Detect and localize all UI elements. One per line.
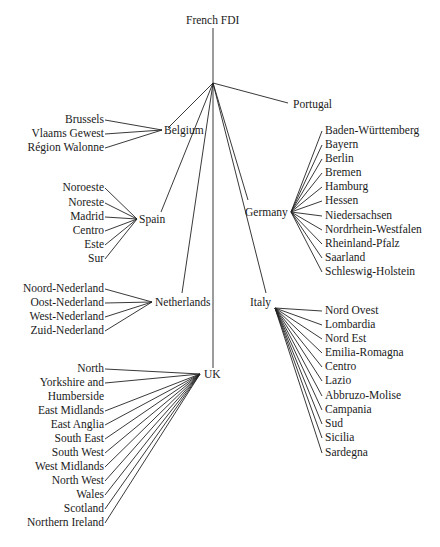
region-label: Nord Est: [325, 332, 366, 345]
country-label-portugal: Portugal: [293, 98, 332, 111]
region-label: West-Nederland: [30, 310, 104, 323]
region-edge: [105, 130, 162, 148]
region-label: Bayern: [325, 138, 358, 151]
region-label: Nord Ovest: [325, 304, 378, 317]
country-label-spain: Spain: [139, 213, 165, 226]
region-edge: [275, 308, 322, 381]
region-label: Emilia-Romagna: [325, 346, 404, 359]
region-edge: [291, 212, 322, 216]
region-label: North: [77, 362, 104, 375]
region-edge: [105, 374, 200, 439]
region-label: West Midlands: [35, 460, 104, 473]
root-label: French FDI: [186, 14, 239, 27]
region-label: Sicilia: [325, 431, 354, 444]
region-edge: [275, 308, 322, 453]
region-label: Sud: [325, 417, 343, 430]
region-label: Yorkshire and: [40, 376, 104, 389]
country-label-uk: UK: [204, 368, 221, 381]
region-label: Bremen: [325, 166, 361, 179]
country-label-germany: Germany: [245, 206, 288, 219]
region-label: Northern Ireland: [27, 516, 104, 529]
region-edge: [105, 188, 137, 219]
region-label: Berlin: [325, 152, 354, 165]
region-label: Humberside: [48, 390, 104, 403]
region-edge: [275, 308, 322, 396]
region-edge: [105, 374, 200, 467]
region-label: Noreste: [68, 196, 104, 209]
country-label-italy: Italy: [250, 296, 271, 309]
region-edge: [105, 130, 162, 134]
region-label: Vlaams Gewest: [32, 127, 105, 140]
region-label: Région Walonne: [28, 141, 104, 154]
region-edge: [291, 159, 322, 212]
region-label: Centro: [325, 360, 356, 373]
hub-edge: [213, 83, 266, 293]
region-edge: [105, 203, 137, 219]
region-label: Brussels: [65, 113, 104, 126]
region-edge: [275, 308, 322, 424]
french-fdi-tree-diagram: French FDI BelgiumBrusselsVlaams GewestR…: [0, 0, 440, 547]
hub-edge: [182, 83, 213, 293]
country-label-belgium: Belgium: [164, 124, 204, 137]
region-label: Sardegna: [325, 446, 368, 459]
region-edge: [105, 217, 137, 219]
region-edge: [105, 289, 152, 302]
region-edge: [105, 120, 162, 130]
country-label-netherlands: Netherlands: [155, 296, 211, 309]
region-edge: [105, 302, 152, 331]
region-label: East Midlands: [38, 404, 104, 417]
region-label: Hamburg: [325, 180, 368, 193]
region-label: Schleswig-Holstein: [325, 265, 415, 278]
region-edge: [105, 302, 152, 303]
region-edge: [105, 219, 137, 245]
region-edge: [105, 369, 200, 374]
region-label: Scotland: [64, 502, 104, 515]
region-edge: [105, 302, 152, 317]
region-label: Rheinland-Pfalz: [325, 237, 400, 250]
region-label: Este: [84, 238, 104, 251]
region-label: Lazio: [325, 374, 351, 387]
region-label: East Anglia: [51, 418, 104, 431]
region-label: Saarland: [325, 251, 365, 264]
region-label: Baden-Württemberg: [325, 124, 419, 137]
region-edge: [275, 308, 322, 438]
region-label: Oost-Nederland: [31, 296, 104, 309]
region-label: Campania: [325, 403, 372, 416]
hub-edge: [168, 83, 213, 128]
region-label: Nordrhein-Westfalen: [325, 223, 422, 236]
region-edge: [105, 374, 200, 523]
region-edge: [291, 212, 322, 244]
region-label: Zuid-Nederland: [31, 324, 104, 337]
region-label: Abbruzo-Molise: [325, 389, 401, 402]
region-label: Sur: [88, 252, 104, 265]
region-edge: [291, 212, 322, 258]
region-label: Niedersachsen: [325, 209, 392, 222]
hub-edge: [213, 83, 288, 103]
region-label: Centro: [73, 224, 104, 237]
hub-edge: [161, 83, 213, 212]
region-label: Madrid: [70, 210, 104, 223]
region-label: Noord-Nederland: [23, 282, 104, 295]
region-label: South East: [54, 432, 104, 445]
region-edge: [105, 374, 200, 481]
region-label: Lombardia: [325, 318, 375, 331]
region-label: Wales: [76, 488, 104, 501]
hub-edge: [213, 83, 248, 200]
region-label: North West: [52, 474, 104, 487]
region-label: Noroeste: [62, 181, 104, 194]
region-label: Hessen: [325, 194, 358, 207]
region-label: South West: [52, 446, 104, 459]
